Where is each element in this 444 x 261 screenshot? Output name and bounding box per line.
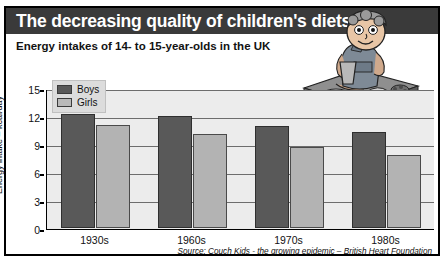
y-tick-mark bbox=[40, 146, 44, 148]
y-tick-mark bbox=[40, 174, 44, 176]
y-tick-mark bbox=[40, 202, 44, 204]
chart-figure: The decreasing quality of children's die… bbox=[0, 0, 444, 261]
y-tick-mark bbox=[40, 90, 44, 92]
bar-girls-1960s bbox=[193, 134, 226, 227]
y-axis: Energy intake – kcal/day 03691215 bbox=[6, 90, 44, 232]
page-title: The decreasing quality of children's die… bbox=[16, 11, 351, 32]
legend-swatch-boys bbox=[57, 85, 72, 94]
plot-wrapper: Boys Girls bbox=[46, 90, 434, 230]
y-tick-label: 12 bbox=[28, 113, 40, 124]
y-tick-label: 15 bbox=[28, 85, 40, 96]
legend-item-girls: Girls bbox=[57, 96, 99, 109]
bar-boys-1960s bbox=[158, 116, 191, 227]
chart-subtitle: Energy intakes of 14- to 15-year-olds in… bbox=[16, 40, 270, 52]
bar-boys-1930s bbox=[61, 114, 94, 228]
y-axis-title: Energy intake – kcal/day bbox=[0, 74, 4, 194]
x-tick-label-1970s: 1970s bbox=[274, 234, 303, 246]
y-tick-mark bbox=[40, 118, 44, 120]
x-tick-label-1960s: 1960s bbox=[177, 234, 206, 246]
gridline bbox=[47, 118, 434, 119]
bar-girls-1980s bbox=[387, 155, 420, 228]
bar-girls-1970s bbox=[290, 147, 323, 227]
legend-label-girls: Girls bbox=[77, 98, 98, 108]
legend-label-boys: Boys bbox=[77, 85, 99, 95]
y-tick-mark bbox=[40, 230, 44, 232]
x-axis-labels: 1930s1960s1970s1980s bbox=[46, 234, 434, 248]
x-tick-label-1980s: 1980s bbox=[371, 234, 400, 246]
chart-legend: Boys Girls bbox=[52, 80, 106, 113]
legend-swatch-girls bbox=[57, 98, 72, 107]
title-bar: The decreasing quality of children's die… bbox=[6, 8, 438, 34]
legend-item-boys: Boys bbox=[57, 83, 99, 96]
bar-girls-1930s bbox=[96, 125, 129, 228]
x-tick-label-1930s: 1930s bbox=[80, 234, 109, 246]
bar-boys-1980s bbox=[352, 132, 385, 227]
bar-boys-1970s bbox=[255, 126, 288, 228]
chart-source: Source: Couch Kids - the growing epidemi… bbox=[178, 247, 432, 256]
chart-card: The decreasing quality of children's die… bbox=[4, 6, 440, 256]
